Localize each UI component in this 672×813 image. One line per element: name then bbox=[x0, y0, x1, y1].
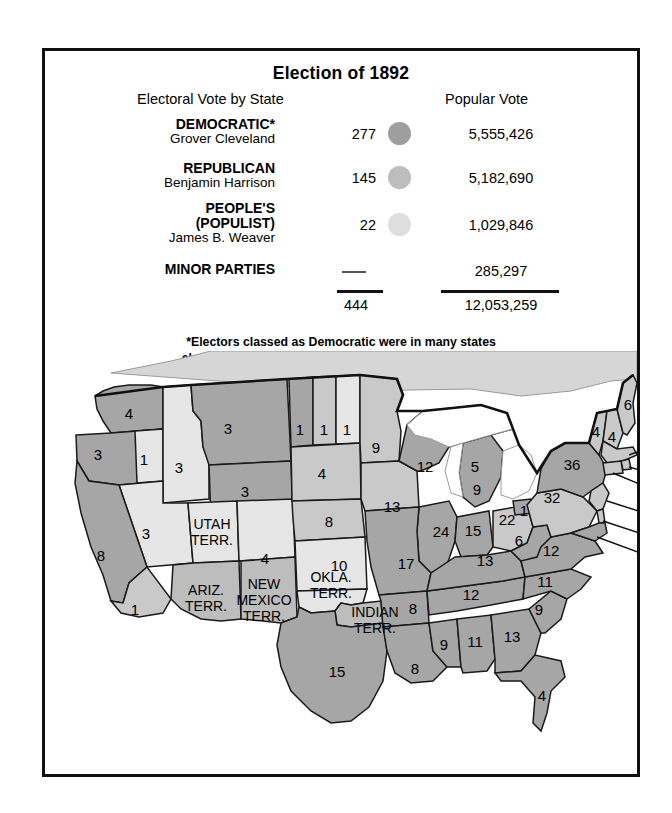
vote-label-kentucky: 13 bbox=[477, 552, 494, 569]
vote-label-illinois: 24 bbox=[433, 523, 450, 540]
label-utah-territory: UTAH bbox=[193, 516, 230, 532]
electoral-total: 444 bbox=[332, 297, 380, 313]
lake-huron-erie bbox=[501, 445, 537, 499]
vote-label-wyoming: 3 bbox=[241, 483, 249, 500]
vote-label-new-york: 36 bbox=[564, 456, 581, 473]
vote-label-iowa: 13 bbox=[384, 498, 401, 515]
vote-label-florida: 4 bbox=[538, 687, 546, 704]
vote-label-south-carolina: 9 bbox=[535, 601, 543, 618]
label-oklahoma-territory-2: TERR. bbox=[310, 585, 352, 601]
electoral-total-rule bbox=[337, 290, 383, 293]
vote-label-ohio-a: 22 bbox=[499, 511, 516, 528]
state-minnesota bbox=[360, 375, 403, 463]
vote-label-montana: 3 bbox=[224, 420, 232, 437]
vote-label-ohio-b: 1 bbox=[520, 502, 528, 519]
election-figure-panel: Election of 1892 Electoral Vote by State… bbox=[42, 48, 640, 777]
leader-line-connecticut bbox=[613, 473, 637, 489]
popular-vote-column-header: Popular Vote bbox=[445, 91, 528, 107]
leader-line-new-jersey bbox=[607, 501, 637, 515]
state-connecticut bbox=[603, 461, 623, 475]
vote-label-west-virginia: 6 bbox=[515, 532, 523, 549]
vote-label-arkansas: 8 bbox=[409, 600, 417, 617]
label-arizona-territory-2: TERR. bbox=[185, 598, 227, 614]
democratic-swatch bbox=[388, 122, 411, 145]
label-utah-territory-2: TERR. bbox=[191, 532, 233, 548]
label-new-mexico-territory-2: MEXICO bbox=[236, 592, 291, 608]
party-block-populist: PEOPLE'S (POPULIST) James B. Weaver bbox=[169, 201, 275, 245]
vote-label-virginia: 12 bbox=[543, 542, 560, 559]
vote-label-north-dakota-a: 1 bbox=[296, 421, 304, 438]
party-block-democratic: DEMOCRATIC* Grover Cleveland bbox=[170, 117, 275, 146]
vote-label-mississippi: 9 bbox=[440, 636, 448, 653]
vote-label-colorado: 4 bbox=[261, 550, 269, 567]
vote-label-missouri: 17 bbox=[398, 555, 415, 572]
vote-label-maine: 6 bbox=[624, 396, 632, 413]
vote-label-new-hampshire: 4 bbox=[608, 428, 616, 445]
vote-label-minnesota: 9 bbox=[372, 439, 380, 456]
vote-label-north-carolina: 11 bbox=[537, 573, 553, 590]
leader-line-rhode-island bbox=[629, 467, 637, 473]
vote-label-oregon-split: 1 bbox=[140, 451, 148, 468]
party-name-minor-parties: MINOR PARTIES bbox=[165, 262, 275, 277]
vote-label-washington: 4 bbox=[125, 405, 133, 422]
vote-label-alabama: 11 bbox=[467, 633, 483, 650]
vote-label-georgia: 13 bbox=[504, 628, 521, 645]
page-title: Election of 1892 bbox=[45, 63, 637, 84]
electoral-map: 4313333814111481091312592415221178158911… bbox=[51, 351, 637, 771]
vote-label-north-dakota-b: 1 bbox=[320, 421, 328, 438]
label-indian-territory-2: TERR. bbox=[354, 620, 396, 636]
party-name-populist: (POPULIST) bbox=[169, 216, 275, 231]
footnote-line-1: *Electors classed as Democratic were in … bbox=[186, 335, 496, 349]
popular-votes-populist: 1,029,846 bbox=[431, 217, 571, 233]
vote-label-california-split: 1 bbox=[131, 601, 139, 618]
electoral-votes-populist: 22 bbox=[332, 217, 376, 233]
party-name-democratic: DEMOCRATIC* bbox=[170, 117, 275, 132]
vote-label-vermont: 4 bbox=[592, 423, 600, 440]
party-block-minor: MINOR PARTIES bbox=[165, 262, 275, 277]
state-montana bbox=[191, 379, 291, 465]
vote-label-texas: 15 bbox=[329, 663, 346, 680]
popular-total: 12,053,259 bbox=[431, 297, 571, 313]
label-new-mexico-territory: NEW bbox=[248, 576, 281, 592]
label-indian-territory: INDIAN bbox=[351, 604, 398, 620]
republican-swatch bbox=[388, 166, 411, 189]
popular-votes-republican: 5,182,690 bbox=[431, 170, 571, 186]
vote-label-wisconsin: 12 bbox=[417, 458, 434, 475]
populist-swatch bbox=[388, 213, 411, 236]
vote-label-pennsylvania: 32 bbox=[544, 489, 561, 506]
leader-line-delaware bbox=[603, 521, 637, 537]
party-name-peoples: PEOPLE'S bbox=[169, 201, 275, 216]
em-dash-icon bbox=[342, 271, 366, 273]
vote-label-michigan-upper: 5 bbox=[471, 458, 479, 475]
electoral-votes-republican: 145 bbox=[332, 170, 376, 186]
popular-total-rule bbox=[441, 290, 559, 293]
vote-label-north-dakota-c: 1 bbox=[343, 421, 351, 438]
vote-label-michigan-lower: 9 bbox=[473, 481, 481, 498]
vote-label-indiana: 15 bbox=[465, 522, 482, 539]
column-headers: Electoral Vote by State Popular Vote bbox=[45, 91, 637, 111]
popular-votes-minor: 285,297 bbox=[431, 263, 571, 279]
electoral-vote-column-header: Electoral Vote by State bbox=[137, 91, 284, 107]
vote-label-oregon: 3 bbox=[94, 446, 102, 463]
vote-label-california: 8 bbox=[97, 547, 105, 564]
label-new-mexico-territory-3: TERR. bbox=[243, 608, 285, 624]
party-name-republican: REPUBLICAN bbox=[164, 161, 275, 176]
vote-label-south-dakota: 4 bbox=[318, 465, 326, 482]
vote-label-nevada: 3 bbox=[142, 525, 150, 542]
candidate-name-cleveland: Grover Cleveland bbox=[170, 132, 275, 146]
popular-votes-democratic: 5,555,426 bbox=[431, 126, 571, 142]
candidate-name-weaver: James B. Weaver bbox=[169, 231, 275, 245]
electoral-votes-democratic: 277 bbox=[332, 126, 376, 142]
vote-label-louisiana: 8 bbox=[411, 660, 419, 677]
party-block-republican: REPUBLICAN Benjamin Harrison bbox=[164, 161, 275, 190]
vote-label-tennessee: 12 bbox=[463, 586, 480, 603]
vote-label-idaho: 3 bbox=[175, 459, 183, 476]
leader-line-maryland bbox=[597, 537, 637, 557]
candidate-name-harrison: Benjamin Harrison bbox=[164, 176, 275, 190]
label-oklahoma-territory: OKLA. bbox=[310, 569, 351, 585]
vote-label-nebraska: 8 bbox=[325, 513, 333, 530]
label-arizona-territory: ARIZ. bbox=[188, 582, 224, 598]
